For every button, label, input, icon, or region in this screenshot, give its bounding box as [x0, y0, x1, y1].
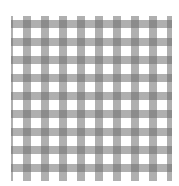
image-canvas: gray and white gingham check pattern: [0, 0, 179, 186]
gingham-pattern: gray and white gingham check pattern: [11, 16, 172, 181]
